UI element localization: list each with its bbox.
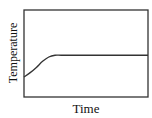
plot-frame: [24, 10, 148, 97]
x-axis-label: Time: [62, 101, 110, 116]
temperature-curve: [24, 55, 148, 77]
y-axis-label: Temperature: [7, 23, 20, 83]
